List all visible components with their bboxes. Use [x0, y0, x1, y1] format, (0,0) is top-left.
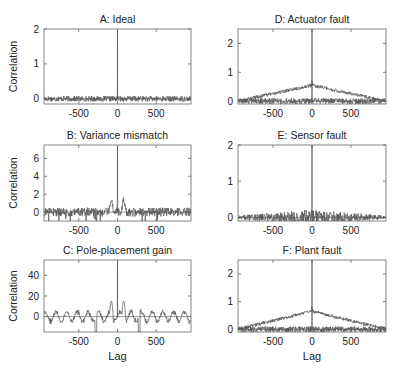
- y-tick-label: 6: [33, 153, 39, 164]
- plot-area: [44, 29, 191, 102]
- y-tick-label: 0: [33, 93, 39, 104]
- y-tick-label: 2: [33, 24, 39, 35]
- x-tick-label: 0: [115, 108, 121, 119]
- plot-area: [44, 260, 191, 332]
- x-tick-label: 500: [343, 336, 360, 347]
- y-axis-label: Correlation: [7, 157, 19, 209]
- x-tick-label: 500: [343, 225, 360, 236]
- x-tick-label: -500: [263, 336, 283, 347]
- y-axis-label: Correlation: [7, 270, 19, 322]
- y-tick-label: 2: [33, 189, 39, 200]
- x-axis-label: Lag: [108, 350, 126, 362]
- y-axis-label: Correlation: [7, 41, 19, 93]
- subplot-c: C: Pole-placement gain-500050002040Corre…: [7, 244, 191, 362]
- subplot-title: D: Actuator fault: [275, 13, 350, 25]
- y-tick-label: 20: [28, 291, 40, 302]
- subplot-f: F: Plant fault-5000500012Lag: [227, 244, 386, 362]
- y-tick-label: 0: [33, 207, 39, 218]
- y-tick-label: 0: [227, 212, 233, 223]
- y-tick-label: 4: [33, 171, 39, 182]
- subplot-d: D: Actuator fault-5000500012: [227, 13, 386, 119]
- series-line-flat: [238, 29, 386, 104]
- x-tick-label: 500: [343, 108, 360, 119]
- subplot-title: C: Pole-placement gain: [63, 244, 172, 256]
- x-tick-label: 0: [115, 336, 121, 347]
- y-tick-label: 0: [33, 311, 39, 322]
- plot-area: [238, 29, 386, 104]
- y-tick-label: 1: [227, 67, 233, 78]
- subplot-title: E: Sensor fault: [278, 129, 347, 141]
- series-line-correlation: [44, 29, 191, 102]
- subplot-title: A: Ideal: [100, 13, 136, 25]
- y-tick-label: 0: [227, 324, 233, 335]
- figure-canvas: A: Ideal-5000500012CorrelationB: Varianc…: [0, 0, 405, 368]
- plot-area: [238, 145, 386, 224]
- subplot-a: A: Ideal-5000500012Correlation: [7, 13, 191, 119]
- series-line-flat: [238, 260, 386, 332]
- plot-area: [238, 260, 386, 332]
- y-tick-label: 2: [227, 140, 233, 151]
- x-tick-label: 0: [309, 336, 315, 347]
- y-tick-label: 0: [227, 96, 233, 107]
- x-tick-label: -500: [69, 336, 89, 347]
- y-tick-label: 40: [28, 270, 40, 281]
- y-tick-label: 2: [227, 38, 233, 49]
- x-tick-label: 500: [148, 336, 165, 347]
- y-tick-label: 1: [33, 58, 39, 69]
- series-line-correlation: [44, 260, 191, 332]
- subplot-title: B: Variance mismatch: [67, 129, 168, 141]
- series-line-correlation: [238, 145, 386, 224]
- x-tick-label: 500: [148, 225, 165, 236]
- subplot-b: B: Variance mismatch-50005000246Correlat…: [7, 129, 191, 236]
- y-tick-label: 1: [227, 296, 233, 307]
- series-line-correlation: [44, 145, 191, 226]
- x-tick-label: 0: [309, 225, 315, 236]
- y-tick-label: 1: [227, 176, 233, 187]
- x-axis-label: Lag: [303, 350, 321, 362]
- x-tick-label: -500: [69, 108, 89, 119]
- x-tick-label: 0: [115, 225, 121, 236]
- y-tick-label: 2: [227, 268, 233, 279]
- plot-area: [44, 145, 191, 226]
- x-tick-label: -500: [263, 108, 283, 119]
- subplot-title: F: Plant fault: [283, 244, 342, 256]
- x-tick-label: -500: [69, 225, 89, 236]
- subplot-e: E: Sensor fault-5000500012: [227, 129, 386, 236]
- x-tick-label: 500: [148, 108, 165, 119]
- x-tick-label: -500: [263, 225, 283, 236]
- x-tick-label: 0: [309, 108, 315, 119]
